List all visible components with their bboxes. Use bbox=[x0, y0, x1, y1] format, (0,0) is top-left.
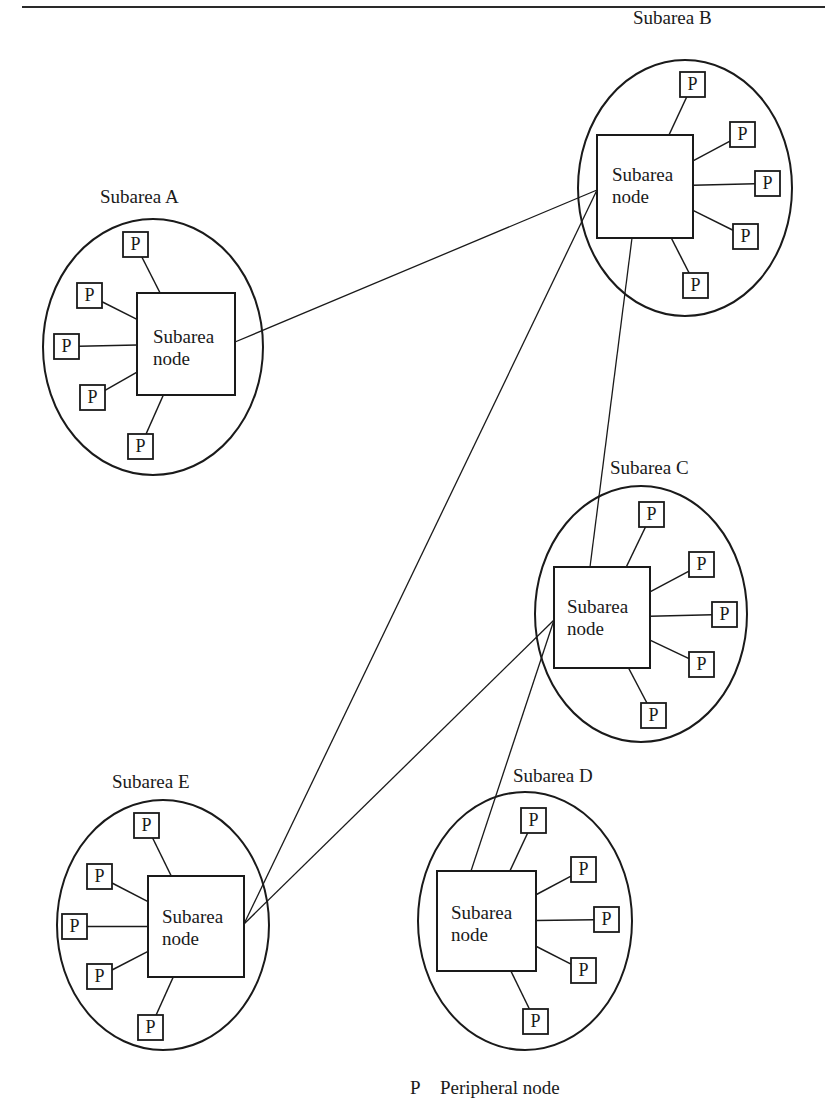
peripheral-label: P bbox=[712, 602, 737, 627]
peripheral-label: P bbox=[138, 1015, 163, 1040]
peripheral-label: P bbox=[54, 334, 79, 359]
peripheral-label: P bbox=[134, 813, 159, 838]
subarea-title: Subarea B bbox=[633, 8, 712, 27]
subarea-title: Subarea E bbox=[112, 772, 190, 791]
subarea-title: Subarea D bbox=[513, 766, 593, 785]
node-label-line2: node bbox=[153, 348, 214, 370]
peripheral-link bbox=[536, 946, 571, 964]
peripheral-link bbox=[626, 527, 645, 567]
peripheral-link bbox=[102, 302, 137, 320]
peripheral-label: P bbox=[683, 273, 708, 298]
peripheral-link bbox=[536, 920, 594, 921]
node-label-line1: Subarea bbox=[451, 902, 512, 924]
peripheral-label: P bbox=[680, 72, 705, 97]
subarea-title: Subarea A bbox=[100, 187, 179, 206]
node-label-line2: node bbox=[567, 618, 628, 640]
peripheral-link bbox=[146, 395, 163, 434]
peripheral-label: P bbox=[87, 864, 112, 889]
node-label-line2: node bbox=[451, 924, 512, 946]
peripheral-label: P bbox=[689, 652, 714, 677]
peripheral-link bbox=[693, 210, 733, 230]
peripheral-link bbox=[669, 97, 687, 135]
link-b-c bbox=[590, 238, 632, 567]
peripheral-link bbox=[693, 141, 730, 161]
node-label-line1: Subarea bbox=[153, 326, 214, 348]
peripheral-link bbox=[156, 977, 173, 1015]
subarea-node-label: Subareanode bbox=[612, 164, 673, 208]
node-label-line2: node bbox=[162, 928, 223, 950]
peripheral-link bbox=[536, 876, 571, 895]
peripheral-link bbox=[671, 238, 689, 273]
peripheral-label: P bbox=[77, 283, 102, 308]
link-a-b bbox=[235, 190, 597, 342]
legend: PPeripheral node bbox=[410, 1077, 560, 1099]
inter-subarea-links bbox=[235, 190, 632, 924]
peripheral-label: P bbox=[521, 808, 546, 833]
peripheral-link bbox=[629, 668, 647, 703]
peripheral-label: P bbox=[123, 232, 148, 257]
peripheral-label: P bbox=[641, 703, 666, 728]
peripheral-link bbox=[693, 184, 755, 186]
peripheral-label: P bbox=[62, 914, 87, 939]
peripheral-label: P bbox=[639, 502, 664, 527]
subarea-node-label: Subareanode bbox=[567, 596, 628, 640]
peripheral-link bbox=[153, 838, 172, 876]
peripheral-label: P bbox=[571, 958, 596, 983]
node-label-line2: node bbox=[612, 186, 673, 208]
peripheral-label: P bbox=[571, 857, 596, 882]
peripheral-link bbox=[112, 951, 148, 970]
node-label-line1: Subarea bbox=[612, 164, 673, 186]
subarea-node-label: Subareanode bbox=[153, 326, 214, 370]
peripheral-link bbox=[105, 372, 137, 390]
node-label-line1: Subarea bbox=[567, 596, 628, 618]
peripheral-link bbox=[650, 640, 689, 658]
peripheral-link bbox=[112, 883, 148, 902]
peripheral-link bbox=[650, 571, 689, 592]
peripheral-label: P bbox=[730, 122, 755, 147]
subareas bbox=[43, 60, 792, 1050]
peripheral-label: P bbox=[80, 385, 105, 410]
node-label-line1: Subarea bbox=[162, 906, 223, 928]
legend-text: Peripheral node bbox=[440, 1077, 560, 1098]
peripheral-label: P bbox=[594, 907, 619, 932]
peripheral-link bbox=[511, 971, 530, 1009]
peripheral-label: P bbox=[87, 964, 112, 989]
subarea-node-label: Subareanode bbox=[451, 902, 512, 946]
peripheral-link bbox=[650, 615, 712, 617]
peripheral-label: P bbox=[689, 552, 714, 577]
peripheral-label: P bbox=[733, 224, 758, 249]
peripheral-link bbox=[79, 345, 137, 346]
peripheral-link bbox=[142, 257, 160, 293]
subarea-node-label: Subareanode bbox=[162, 906, 223, 950]
subarea-title: Subarea C bbox=[610, 458, 689, 477]
peripheral-label: P bbox=[755, 171, 780, 196]
peripheral-link bbox=[510, 833, 528, 871]
peripheral-label: P bbox=[523, 1009, 548, 1034]
legend-symbol: P bbox=[410, 1077, 440, 1099]
peripheral-label: P bbox=[128, 434, 153, 459]
